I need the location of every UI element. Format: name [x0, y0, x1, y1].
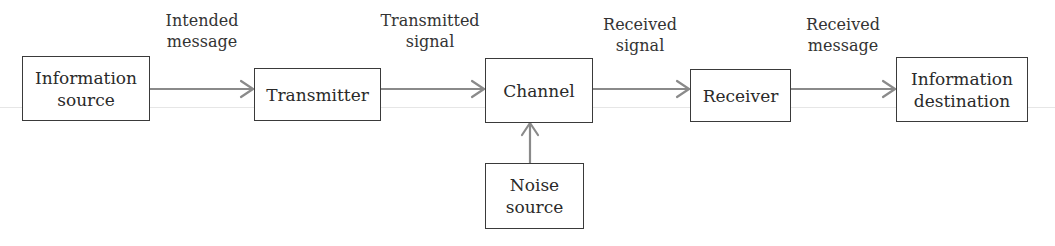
block-transmitter: Transmitter — [254, 68, 381, 121]
block-label: Information — [35, 67, 137, 89]
edge-label-line: Received — [790, 14, 896, 35]
block-label: source — [57, 89, 115, 111]
edge-label-line: Transmitted — [370, 10, 490, 31]
edge-label-transmitted-signal: Transmitted signal — [370, 10, 490, 52]
edge-label-line: Intended — [150, 10, 254, 31]
block-label: destination — [914, 90, 1010, 112]
arrow-channel-to-receiver — [592, 81, 689, 97]
block-noise-source: Noise source — [485, 163, 584, 229]
edge-label-received-message: Received message — [790, 14, 896, 56]
edge-label-line: Received — [585, 14, 695, 35]
block-label: Receiver — [703, 85, 779, 107]
block-information-source: Information source — [22, 56, 150, 121]
block-channel: Channel — [485, 58, 593, 123]
block-information-destination: Information destination — [896, 57, 1028, 122]
arrow-receiver-to-destination — [790, 81, 895, 97]
block-label: Information — [911, 68, 1013, 90]
block-receiver: Receiver — [690, 69, 791, 122]
edge-label-line: message — [150, 31, 254, 52]
block-label: source — [506, 196, 564, 218]
edge-label-line: signal — [370, 31, 490, 52]
edge-label-received-signal: Received signal — [585, 14, 695, 56]
block-label: Channel — [503, 80, 575, 102]
edge-label-line: message — [790, 35, 896, 56]
block-label: Noise — [510, 174, 559, 196]
block-label: Transmitter — [266, 84, 369, 106]
arrow-source-to-transmitter — [149, 81, 253, 97]
arrow-noise-to-channel — [522, 123, 538, 163]
arrow-transmitter-to-channel — [380, 81, 484, 97]
edge-label-intended-message: Intended message — [150, 10, 254, 52]
edge-label-line: signal — [585, 35, 695, 56]
